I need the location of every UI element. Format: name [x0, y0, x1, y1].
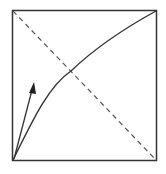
arrow-shaft: [14, 90, 32, 159]
diagram: [0, 0, 166, 174]
arrowhead-icon: [29, 82, 36, 94]
